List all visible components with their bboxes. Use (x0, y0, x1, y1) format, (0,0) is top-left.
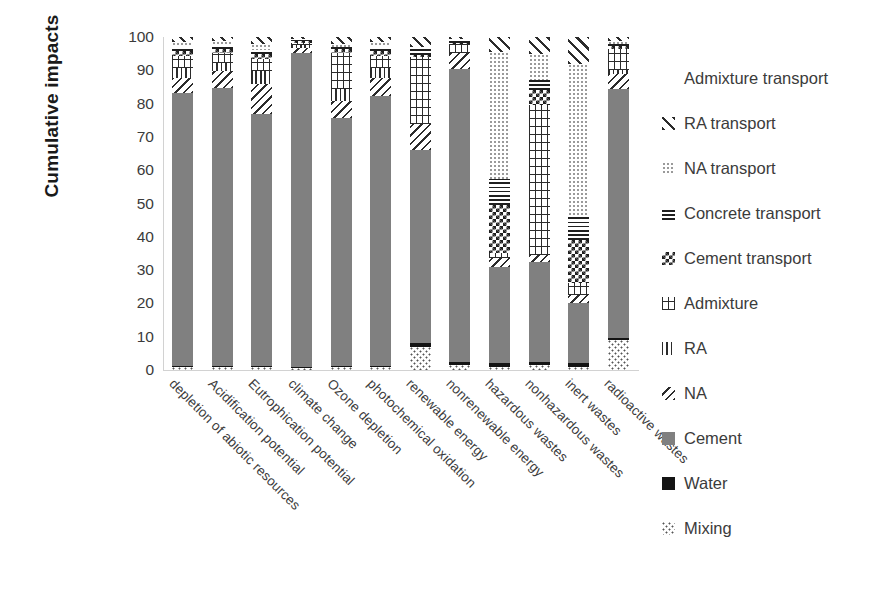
y-axis-tick: 100 (128, 28, 163, 46)
y-axis-tick: 40 (137, 228, 163, 246)
bar-nonrenewable-energy[interactable] (449, 37, 470, 370)
legend-label: Concrete transport (684, 204, 821, 223)
bar-segment-cement (489, 267, 510, 364)
bar-nonhazardous-wastes[interactable] (529, 37, 550, 370)
bar-segment-concrete-transport (568, 217, 589, 240)
bar-segment-mixing (410, 347, 431, 370)
legend-item-admixture-transport[interactable]: Admixture transport (662, 56, 877, 101)
bar-climate-change[interactable] (291, 37, 312, 370)
bar-radioactive-wastes[interactable] (608, 37, 629, 370)
bar-segment-admixture (410, 57, 431, 124)
legend-swatch-na-icon (662, 387, 675, 400)
legend-item-cement-transport[interactable]: Cement transport (662, 236, 877, 281)
x-axis-line (163, 370, 639, 371)
bar-segment-cement-transport (489, 205, 510, 253)
bar-segment-ra-transport (331, 37, 352, 44)
legend-item-admixture[interactable]: Admixture (662, 281, 877, 326)
legend-swatch-concrete-transport-icon (662, 207, 675, 220)
bar-segment-cement (172, 93, 193, 366)
legend-item-cement[interactable]: Cement (662, 416, 877, 461)
bar-segment-ra (251, 71, 272, 84)
bar-segment-ra-transport (251, 37, 272, 44)
bar-segment-cement (251, 114, 272, 365)
y-axis-tick: 20 (137, 294, 163, 312)
bar-segment-ra (331, 89, 352, 101)
legend-label: Admixture (684, 294, 758, 313)
bar-segment-na (212, 71, 233, 88)
stacked-bar-chart: Cumulative impacts 100908070605040302010… (0, 0, 885, 595)
bar-segment-na-transport (251, 44, 272, 51)
legend-label: RA (684, 339, 707, 358)
bar-segment-mixing (370, 367, 391, 370)
legend-item-ra-transport[interactable]: RA transport (662, 101, 877, 146)
legend-swatch-na-transport-icon (662, 162, 675, 175)
bar-segment-ra (212, 63, 233, 71)
bar-segment-cement-transport (529, 90, 550, 105)
bar-segment-ra-transport (489, 37, 510, 52)
bar-segment-concrete-transport (410, 47, 431, 55)
bar-segment-admixture (449, 44, 470, 52)
bar-segment-ra-transport (529, 37, 550, 54)
legend-label: RA transport (684, 114, 776, 133)
bar-segment-cement (568, 303, 589, 363)
y-axis-tick: 90 (137, 61, 163, 79)
bar-ozone-depletion[interactable] (331, 37, 352, 370)
legend-item-na-transport[interactable]: NA transport (662, 146, 877, 191)
bar-segment-na-transport (529, 54, 550, 81)
legend-label: Cement (684, 429, 742, 448)
bar-segment-ra-transport (568, 37, 589, 64)
legend-label: Admixture transport (684, 69, 828, 88)
bar-segment-cement (291, 53, 312, 368)
legend-item-ra[interactable]: RA (662, 326, 877, 371)
bar-segment-na (331, 101, 352, 118)
bar-segment-na-transport (489, 52, 510, 179)
y-axis-tick: 60 (137, 161, 163, 179)
bar-segment-na (568, 295, 589, 303)
legend-label: Mixing (684, 519, 732, 538)
bar-segment-mixing (449, 365, 470, 370)
y-axis-title: Cumulative impacts (41, 0, 63, 246)
bar-segment-admixture (212, 53, 233, 63)
legend-swatch-water-icon (662, 477, 675, 490)
legend-item-water[interactable]: Water (662, 461, 877, 506)
bar-segment-na (529, 255, 550, 262)
bar-segment-cement (331, 118, 352, 366)
bar-segment-admixture (331, 53, 352, 90)
chart-legend: Admixture transportRA transportNA transp… (662, 56, 877, 551)
bar-segment-na (172, 78, 193, 93)
legend-swatch-admixture-icon (662, 297, 675, 310)
bar-segment-mixing (568, 367, 589, 370)
bar-acidification-potential[interactable] (212, 37, 233, 370)
bar-segment-na (608, 74, 629, 89)
y-axis-tick: 30 (137, 261, 163, 279)
bar-segment-cement (410, 150, 431, 343)
bar-segment-admixture (608, 49, 629, 71)
bar-segment-admixture (251, 59, 272, 71)
bar-eutrophication-potential[interactable] (251, 37, 272, 370)
legend-label: NA transport (684, 159, 776, 178)
bar-depletion-of-abiotic-resources[interactable] (172, 37, 193, 370)
legend-swatch-cement-icon (662, 432, 675, 445)
bar-hazardous-wastes[interactable] (489, 37, 510, 370)
bar-renewable-energy[interactable] (410, 37, 431, 370)
legend-swatch-ra-transport-icon (662, 117, 675, 130)
legend-item-mixing[interactable]: Mixing (662, 506, 877, 551)
bar-segment-cement-transport (568, 240, 589, 283)
y-axis-tick: 50 (137, 195, 163, 213)
bar-segment-mixing (529, 365, 550, 370)
y-axis-tick: 80 (137, 95, 163, 113)
bar-segment-mixing (489, 367, 510, 370)
bar-segment-na-transport (568, 64, 589, 217)
legend-swatch-ra-icon (662, 342, 675, 355)
bar-segment-na (489, 258, 510, 266)
bar-segment-admixture (529, 105, 550, 255)
bar-inert-wastes[interactable] (568, 37, 589, 370)
bar-segment-ra-transport (410, 37, 431, 47)
bar-segment-mixing (291, 368, 312, 370)
bar-photochemical-oxidation[interactable] (370, 37, 391, 370)
bar-segment-mixing (608, 340, 629, 370)
legend-item-concrete-transport[interactable]: Concrete transport (662, 191, 877, 236)
bar-segment-na (410, 124, 431, 151)
bar-segment-cement (529, 262, 550, 362)
legend-item-na[interactable]: NA (662, 371, 877, 416)
